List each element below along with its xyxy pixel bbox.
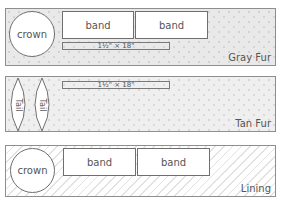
strip-piece: 1½" × 18" — [62, 42, 170, 50]
panel-label: Tan Fur — [235, 118, 271, 129]
crown-piece: crown — [10, 148, 55, 193]
panel-label: Gray Fur — [228, 52, 271, 63]
tan-fur-panel: Tail Tail 1½" × 18" Tan Fur — [5, 76, 276, 132]
band-piece-1: band — [62, 11, 134, 39]
band-label: band — [161, 157, 186, 168]
band-label: band — [87, 157, 112, 168]
strip-dimension: 1½" × 18" — [98, 43, 135, 49]
crown-piece: crown — [9, 11, 55, 57]
strip-dimension: 1½" × 18" — [98, 82, 135, 88]
tail-piece-2: Tail — [32, 78, 52, 131]
tail-piece-1: Tail — [8, 78, 28, 131]
crown-label: crown — [17, 29, 47, 40]
band-piece-2: band — [135, 11, 208, 39]
band-label: band — [85, 20, 110, 31]
band-piece-1: band — [63, 148, 136, 176]
band-label: band — [159, 20, 184, 31]
band-piece-2: band — [137, 148, 210, 176]
tail-label: Tail — [14, 98, 23, 111]
strip-piece: 1½" × 18" — [62, 81, 170, 89]
crown-label: crown — [17, 165, 47, 176]
gray-fur-panel: crown band band 1½" × 18" Gray Fur — [5, 8, 276, 66]
panel-label: Lining — [241, 183, 271, 194]
lining-panel: crown band band Lining — [5, 145, 276, 197]
tail-label: Tail — [38, 98, 47, 111]
